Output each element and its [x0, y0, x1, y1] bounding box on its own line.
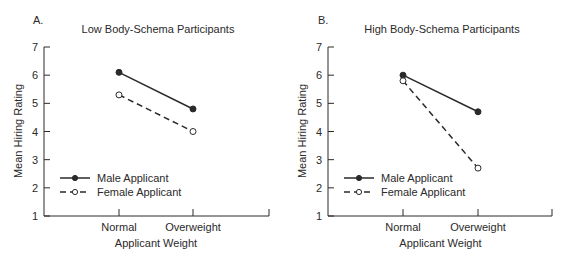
chart-title: High Body-Schema Participants — [364, 23, 520, 35]
x-tick-label: Normal — [385, 221, 420, 233]
figure: A.Low Body-Schema Participants1234567Mea… — [0, 0, 565, 260]
y-tick-label: 5 — [32, 97, 38, 109]
legend-label: Male Applicant — [97, 172, 169, 184]
male-series-line — [403, 75, 478, 112]
x-tick-label: Overweight — [165, 221, 221, 233]
y-tick-label: 3 — [32, 154, 38, 166]
x-axis-label: Applicant Weight — [399, 237, 481, 249]
female-data-point — [475, 165, 481, 171]
y-tick-label: 2 — [32, 182, 38, 194]
legend: Male ApplicantFemale Applicant — [344, 172, 465, 198]
female-data-point — [400, 78, 406, 84]
y-tick-label: 4 — [316, 126, 322, 138]
chart-title: Low Body-Schema Participants — [82, 23, 235, 35]
panel-label: A. — [33, 14, 43, 26]
y-tick-label: 1 — [32, 210, 38, 222]
male-data-point — [116, 69, 122, 75]
legend-label: Male Applicant — [381, 172, 453, 184]
x-tick-label: Normal — [101, 221, 136, 233]
y-tick-label: 2 — [316, 182, 322, 194]
y-axis-label: Mean Hiring Rating — [296, 84, 308, 178]
female-data-point — [116, 92, 122, 98]
female-data-point — [190, 129, 196, 135]
legend-marker-icon — [72, 175, 77, 180]
y-tick-label: 7 — [32, 41, 38, 53]
legend-marker-icon — [356, 175, 361, 180]
y-axis-label: Mean Hiring Rating — [12, 84, 24, 178]
panel-label: B. — [318, 14, 328, 26]
legend: Male ApplicantFemale Applicant — [60, 172, 181, 198]
legend-marker-icon — [72, 189, 77, 194]
x-tick-label: Overweight — [450, 221, 506, 233]
y-tick-label: 1 — [316, 210, 322, 222]
male-data-point — [400, 72, 406, 78]
male-data-point — [475, 109, 481, 115]
y-tick-label: 3 — [316, 154, 322, 166]
male-data-point — [190, 106, 196, 112]
x-axis-label: Applicant Weight — [115, 237, 197, 249]
y-tick-label: 6 — [32, 69, 38, 81]
legend-marker-icon — [356, 189, 361, 194]
chart-panel-b: B.High Body-Schema Participants1234567Me… — [296, 14, 552, 249]
y-tick-label: 7 — [316, 41, 322, 53]
y-tick-label: 6 — [316, 69, 322, 81]
y-tick-label: 5 — [316, 97, 322, 109]
female-series-line — [119, 95, 193, 132]
chart-panel-a: A.Low Body-Schema Participants1234567Mea… — [12, 14, 269, 249]
y-tick-label: 4 — [32, 126, 38, 138]
male-series-line — [119, 72, 193, 109]
legend-label: Female Applicant — [381, 186, 465, 198]
legend-label: Female Applicant — [97, 186, 181, 198]
